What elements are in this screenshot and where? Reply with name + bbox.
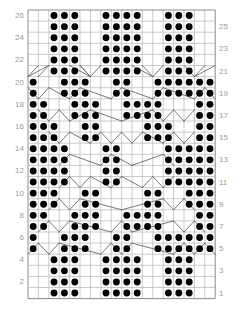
purl-stitch-dot — [51, 267, 58, 274]
purl-stitch-dot — [207, 101, 214, 108]
purl-stitch-dot — [123, 45, 130, 52]
purl-stitch-dot — [186, 57, 193, 64]
purl-stitch-dot — [196, 156, 203, 163]
purl-stitch-dot — [113, 23, 120, 30]
purl-stitch-dot — [82, 223, 89, 230]
row-label-left: 16 — [4, 121, 24, 132]
purl-stitch-dot — [61, 168, 68, 175]
row-label-left: 22 — [4, 54, 24, 65]
purl-stitch-dot — [82, 190, 89, 197]
purl-stitch-dot — [113, 145, 120, 152]
purl-stitch-dot — [134, 279, 141, 286]
purl-stitch-dot — [175, 57, 182, 64]
purl-stitch-dot — [113, 90, 120, 97]
purl-stitch-dot — [207, 145, 214, 152]
purl-stitch-dot — [71, 290, 78, 297]
purl-stitch-dot — [103, 290, 110, 297]
purl-stitch-dot — [51, 57, 58, 64]
purl-stitch-dot — [165, 23, 172, 30]
purl-stitch-dot — [186, 145, 193, 152]
purl-stitch-dot — [165, 168, 172, 175]
purl-stitch-dot — [186, 68, 193, 75]
purl-stitch-dot — [61, 145, 68, 152]
purl-stitch-dot — [82, 201, 89, 208]
purl-stitch-dot — [155, 134, 162, 141]
purl-stitch-dot — [134, 256, 141, 263]
row-label-right: 1 — [219, 288, 243, 299]
row-label-left: 12 — [4, 165, 24, 176]
purl-stitch-dot — [30, 145, 37, 152]
purl-stitch-dot — [144, 190, 151, 197]
purl-stitch-dot — [196, 101, 203, 108]
purl-stitch-dot — [165, 290, 172, 297]
purl-stitch-dot — [103, 156, 110, 163]
row-label-right: 5 — [219, 243, 243, 254]
purl-stitch-dot — [82, 112, 89, 119]
purl-stitch-dot — [186, 234, 193, 241]
purl-stitch-dot — [123, 101, 130, 108]
purl-stitch-dot — [92, 212, 99, 219]
purl-stitch-dot — [103, 45, 110, 52]
purl-stitch-dot — [113, 12, 120, 19]
purl-stitch-dot — [175, 156, 182, 163]
purl-stitch-dot — [61, 279, 68, 286]
purl-stitch-dot — [61, 68, 68, 75]
purl-stitch-dot — [103, 179, 110, 186]
purl-stitch-dot — [134, 212, 141, 219]
purl-stitch-dot — [71, 101, 78, 108]
purl-stitch-dot — [92, 134, 99, 141]
purl-stitch-dot — [207, 234, 214, 241]
row-label-right: 25 — [219, 21, 243, 32]
purl-stitch-dot — [196, 179, 203, 186]
purl-stitch-dot — [82, 90, 89, 97]
purl-stitch-dot — [207, 79, 214, 86]
row-label-right: 23 — [219, 43, 243, 54]
purl-stitch-dot — [134, 290, 141, 297]
purl-stitch-dot — [82, 245, 89, 252]
purl-stitch-dot — [103, 12, 110, 19]
purl-stitch-dot — [71, 23, 78, 30]
purl-stitch-dot — [82, 212, 89, 219]
purl-stitch-dot — [113, 156, 120, 163]
purl-stitch-dot — [175, 279, 182, 286]
purl-stitch-dot — [40, 112, 47, 119]
purl-stitch-dot — [207, 90, 214, 97]
purl-stitch-dot — [196, 134, 203, 141]
purl-stitch-dot — [71, 34, 78, 41]
purl-stitch-dot — [113, 245, 120, 252]
row-label-left: 6 — [4, 232, 24, 243]
purl-stitch-dot — [30, 90, 37, 97]
purl-stitch-dot — [123, 34, 130, 41]
purl-stitch-dot — [71, 57, 78, 64]
purl-stitch-dot — [175, 68, 182, 75]
purl-stitch-dot — [123, 79, 130, 86]
purl-stitch-dot — [71, 12, 78, 19]
purl-stitch-dot — [71, 212, 78, 219]
purl-stitch-dot — [103, 256, 110, 263]
purl-stitch-dot — [51, 201, 58, 208]
purl-stitch-dot — [186, 256, 193, 263]
purl-stitch-dot — [196, 112, 203, 119]
purl-stitch-dot — [186, 190, 193, 197]
row-label-right: 7 — [219, 221, 243, 232]
purl-stitch-dot — [123, 12, 130, 19]
purl-stitch-dot — [71, 234, 78, 241]
purl-stitch-dot — [175, 23, 182, 30]
purl-stitch-dot — [30, 223, 37, 230]
chart-grid-svg — [0, 0, 247, 309]
purl-stitch-dot — [71, 267, 78, 274]
purl-stitch-dot — [61, 34, 68, 41]
purl-stitch-dot — [165, 45, 172, 52]
purl-stitch-dot — [82, 134, 89, 141]
purl-stitch-dot — [113, 267, 120, 274]
purl-stitch-dot — [134, 101, 141, 108]
purl-stitch-dot — [103, 68, 110, 75]
purl-stitch-dot — [82, 101, 89, 108]
purl-stitch-dot — [155, 245, 162, 252]
purl-stitch-dot — [196, 190, 203, 197]
purl-stitch-dot — [40, 223, 47, 230]
purl-stitch-dot — [61, 290, 68, 297]
purl-stitch-dot — [71, 245, 78, 252]
purl-stitch-dot — [175, 245, 182, 252]
row-label-left: 18 — [4, 99, 24, 110]
